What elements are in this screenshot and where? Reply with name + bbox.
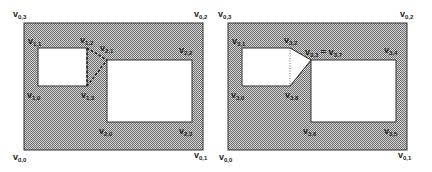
right-panel: v0,3 v0,2 v0,0 v0,1 v3,1 v3,2 v3,3 = v3,…	[218, 9, 414, 163]
label-v03-right: v0,3	[218, 9, 232, 20]
hole-rect-v1	[38, 48, 87, 86]
label-v01-left: v0,1	[194, 150, 208, 161]
label-v02-left: v0,2	[194, 9, 208, 20]
label-v00-right: v0,0	[219, 152, 233, 163]
label-v03-left: v0,3	[13, 9, 27, 20]
polygon-merge-diagram: v0,3 v0,2 v0,0 v0,1 v1,1 v1,2 v2,1 v2,2 …	[0, 0, 432, 172]
hole-rect-v2	[107, 60, 192, 122]
label-v00-left: v0,0	[13, 152, 27, 163]
left-panel: v0,3 v0,2 v0,0 v0,1 v1,1 v1,2 v2,1 v2,2 …	[13, 9, 208, 163]
label-v02-right: v0,2	[400, 9, 414, 20]
label-v01-right: v0,1	[398, 150, 412, 161]
